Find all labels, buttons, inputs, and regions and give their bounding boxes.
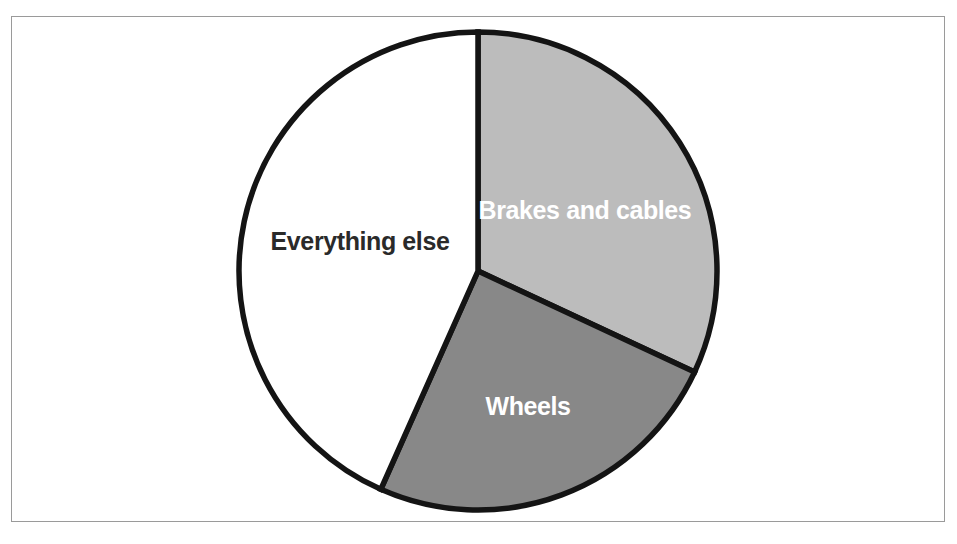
pie-slices-group: [239, 32, 717, 510]
pie-chart-figure: Brakes and cablesWheelsEverything else: [0, 0, 957, 544]
pie-slice-label-brakes-and-cables: Brakes and cables: [479, 196, 692, 224]
pie-chart-canvas: Brakes and cablesWheelsEverything else: [0, 0, 957, 544]
pie-slice-label-wheels: Wheels: [485, 392, 570, 420]
pie-slice-label-everything-else: Everything else: [271, 227, 450, 255]
